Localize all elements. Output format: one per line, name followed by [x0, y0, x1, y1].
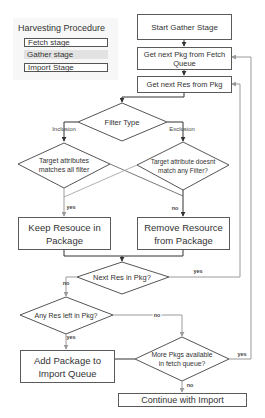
node-remove-resource: Remove Resource from Package — [137, 217, 230, 250]
legend-title: Harvesting Procedure — [18, 23, 105, 33]
label-next-res-yes: yes — [193, 268, 202, 274]
diamond-text-any-res: Any Res left in Pkg? — [34, 312, 97, 319]
label-exclusion: Exclusion — [169, 126, 195, 132]
label-more-pkgs-yes: yes — [237, 351, 246, 357]
node-continue-import: Continue with Import — [118, 393, 247, 407]
legend-item-fetch: Fetch stage — [24, 38, 108, 47]
node-keep-resource: Keep Resouce in Package — [18, 217, 111, 250]
node-get-next-res: Get next Res from Pkg — [137, 76, 232, 93]
label-inclusion: Inclusion — [52, 126, 76, 132]
label-incl-yes: yes — [66, 204, 75, 210]
diamond-text-more-pkgs: More Pkgs available in fetch queue? — [149, 350, 215, 368]
node-get-next-pkg: Get next Pkg from Fetch Queue — [137, 47, 232, 70]
label-any-res-no: no — [153, 312, 162, 318]
legend: Harvesting Procedure Fetch stage Gather … — [13, 18, 118, 80]
edge-any-res-no — [113, 315, 182, 336]
diamond-text-next-res: Next Res in Pkg? — [93, 273, 151, 282]
diamond-text-exclusion: Target attribute doesnt match any Filter… — [150, 158, 216, 175]
legend-item-gather: Gather stage — [24, 50, 108, 59]
node-add-package: Add Package to Import Queue — [20, 350, 115, 383]
label-any-res-yes: yes — [66, 334, 75, 340]
diamond-text-inclusion: Target attributes matches all filter — [33, 156, 95, 174]
label-next-res-no: no — [63, 280, 70, 286]
label-excl-no: no — [172, 205, 179, 211]
node-start-gather: Start Gather Stage — [137, 14, 232, 40]
edge-getres-to-filter — [122, 93, 184, 102]
diamond-text-filter-type: Filter Type — [105, 118, 140, 127]
label-more-pkgs-no: no — [187, 382, 194, 388]
legend-item-import: Import Stage — [24, 63, 108, 72]
